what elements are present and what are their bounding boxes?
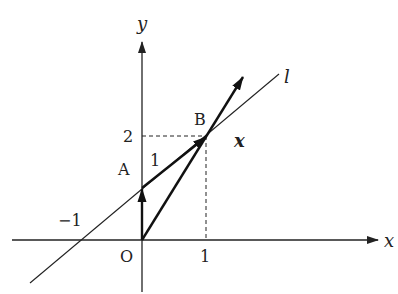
- tick-x-one: 1: [200, 249, 210, 265]
- y-axis-label: y: [137, 15, 147, 33]
- tick-x-neg-one: −1: [58, 213, 82, 229]
- origin-label: O: [120, 249, 133, 265]
- diagram-canvas: y x O 1 −1 2 A B 1 x l: [0, 0, 398, 294]
- vector-x-label: x: [234, 132, 245, 150]
- point-b-label: B: [194, 112, 206, 128]
- vector-ab-magnitude-label: 1: [150, 153, 160, 169]
- x-axis-label: x: [384, 232, 394, 250]
- tick-y-two: 2: [123, 129, 133, 145]
- point-a-label: A: [118, 162, 130, 178]
- line-l-label: l: [284, 68, 290, 86]
